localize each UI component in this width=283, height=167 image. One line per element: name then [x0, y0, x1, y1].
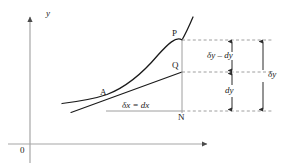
diagram-canvas — [0, 0, 283, 167]
differential-diagram: y 0 A P Q N δx = dx δy – dy dy δy — [0, 0, 283, 167]
annotation-delta-y: δy — [268, 70, 276, 79]
y-axis-label: y — [46, 9, 50, 18]
annotation-dy: dy — [225, 86, 234, 95]
point-label-p: P — [172, 29, 177, 38]
origin-label: 0 — [20, 146, 25, 155]
annotation-delta-y-minus-dy: δy – dy — [207, 51, 233, 60]
annotation-delta-x: δx = dx — [122, 101, 149, 110]
point-label-a: A — [100, 88, 107, 97]
point-label-q: Q — [172, 61, 179, 70]
point-label-n: N — [178, 113, 185, 122]
